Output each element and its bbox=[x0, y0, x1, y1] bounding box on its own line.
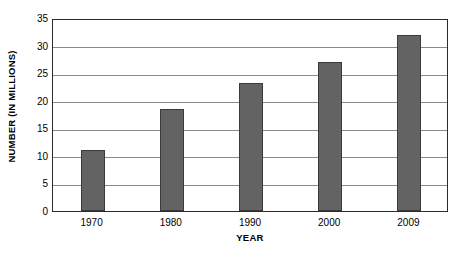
x-axis-tick-label-1970: 1970 bbox=[62, 216, 122, 230]
x-axis-tick-label-1980: 1980 bbox=[141, 216, 201, 230]
gridline bbox=[53, 47, 447, 48]
plot-area bbox=[52, 19, 448, 212]
y-axis-tick-label: 15 bbox=[24, 124, 48, 134]
x-axis-tick-label-1990: 1990 bbox=[220, 216, 280, 230]
y-axis-tick-label: 0 bbox=[24, 207, 48, 217]
bar-chart: NUMBER (IN MILLIONS) 05101520253035 1970… bbox=[0, 0, 463, 260]
bar-1980 bbox=[160, 109, 184, 211]
y-axis-title: NUMBER (IN MILLIONS) bbox=[0, 0, 22, 212]
x-axis-tick-label-2000: 2000 bbox=[299, 216, 359, 230]
x-axis-tick-label-2009: 2009 bbox=[378, 216, 438, 230]
bar-1970 bbox=[81, 150, 105, 211]
y-axis-tick-label: 25 bbox=[24, 69, 48, 79]
gridline bbox=[53, 75, 447, 76]
bar-2009 bbox=[397, 35, 421, 211]
y-axis-tick-label: 20 bbox=[24, 97, 48, 107]
x-axis-title: YEAR bbox=[52, 232, 448, 243]
bar-1990 bbox=[239, 83, 263, 211]
y-axis-title-text: NUMBER (IN MILLIONS) bbox=[6, 50, 17, 162]
y-axis-tick-label: 5 bbox=[24, 179, 48, 189]
y-axis-tick-label: 10 bbox=[24, 152, 48, 162]
bar-2000 bbox=[318, 62, 342, 211]
y-axis-tick-label: 35 bbox=[24, 14, 48, 24]
x-axis-tick-labels: 19701980199020002009 bbox=[52, 216, 448, 232]
y-axis-tick-label: 30 bbox=[24, 42, 48, 52]
y-axis-tick-labels: 05101520253035 bbox=[22, 19, 48, 212]
